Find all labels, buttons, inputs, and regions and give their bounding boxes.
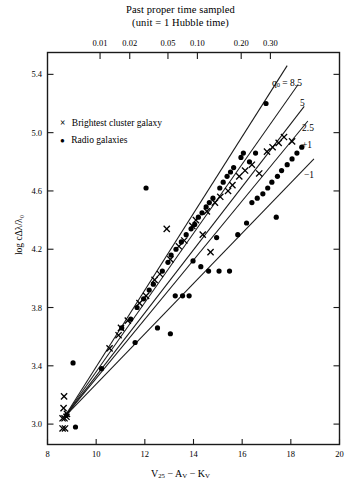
marker-dot xyxy=(160,268,165,273)
legend-marker-cross: × xyxy=(60,118,65,128)
y-tick-label-3.0: 3.0 xyxy=(16,419,42,429)
plot-canvas xyxy=(0,0,361,489)
x-tick-label-10: 10 xyxy=(92,449,101,459)
marker-dot xyxy=(231,165,236,170)
marker-dot xyxy=(224,174,229,179)
marker-dot xyxy=(187,293,192,298)
marker-dot xyxy=(285,162,290,167)
model-line-4 xyxy=(65,159,314,417)
marker-dot xyxy=(235,232,240,237)
model-line-label-4: −1 xyxy=(304,170,314,180)
series-brightest-cluster-galaxy-points xyxy=(59,134,295,432)
marker-cross xyxy=(281,134,287,140)
marker-cross xyxy=(242,167,248,173)
marker-dot xyxy=(188,226,193,231)
legend-item-brightest-cluster-galaxy: × Brightest cluster galaxy xyxy=(60,118,162,128)
y-tick-label-3.4: 3.4 xyxy=(16,361,42,371)
marker-dot xyxy=(249,200,254,205)
marker-dot xyxy=(73,424,78,429)
y-tick-label-3.8: 3.8 xyxy=(16,303,42,313)
top-tick-label-0.05: 0.05 xyxy=(161,38,176,48)
marker-dot xyxy=(151,282,156,287)
marker-dot xyxy=(99,366,104,371)
top-tick-label-0.10: 0.10 xyxy=(190,38,205,48)
model-line-label-2: 2.5 xyxy=(302,123,314,133)
x-tick-label-20: 20 xyxy=(335,449,344,459)
marker-dot xyxy=(165,260,170,265)
marker-dot xyxy=(265,185,270,190)
legend-marker-dot: ● xyxy=(60,136,65,145)
marker-dot xyxy=(274,215,279,220)
marker-dot xyxy=(255,196,260,201)
marker-dot xyxy=(70,360,75,365)
marker-dot xyxy=(275,174,280,179)
marker-cross xyxy=(256,170,262,176)
legend-label-radio-galaxies: Radio galaxies xyxy=(71,135,127,145)
marker-dot xyxy=(217,185,222,190)
legend-item-radio-galaxies: ● Radio galaxies xyxy=(60,135,127,145)
marker-cross xyxy=(164,226,170,232)
x-axis-label-sub25: 25 xyxy=(158,472,165,479)
axis-ticks xyxy=(48,53,340,445)
marker-cross xyxy=(236,173,242,179)
marker-dot xyxy=(206,268,211,273)
marker-dot xyxy=(227,268,232,273)
marker-dot xyxy=(196,215,201,220)
marker-dot xyxy=(128,317,133,322)
model-line-label-1: 5 xyxy=(300,98,305,108)
marker-dot xyxy=(216,268,221,273)
marker-dot xyxy=(294,150,299,155)
marker-dot xyxy=(119,325,124,330)
marker-dot xyxy=(190,258,195,263)
marker-dot xyxy=(247,159,252,164)
marker-dot xyxy=(64,413,69,418)
marker-dot xyxy=(221,180,226,185)
marker-dot xyxy=(214,235,219,240)
marker-dot xyxy=(279,168,284,173)
hubble-diagram-figure: Past proper time sampled (unit = 1 Hubbl… xyxy=(0,0,361,489)
marker-dot xyxy=(241,150,246,155)
marker-cross xyxy=(225,188,231,194)
y-axis-label: log cΔλ/λ₀ xyxy=(14,180,24,290)
marker-dot xyxy=(169,252,174,257)
marker-dot xyxy=(238,155,243,160)
marker-dot xyxy=(173,247,178,252)
model-line-3 xyxy=(65,121,308,417)
marker-dot xyxy=(133,340,138,345)
marker-cross xyxy=(289,138,295,144)
marker-dot xyxy=(141,296,146,301)
marker-dot xyxy=(260,191,265,196)
marker-dot xyxy=(155,325,160,330)
marker-dot xyxy=(198,264,203,269)
marker-dot xyxy=(244,220,249,225)
plot-frame xyxy=(48,53,340,445)
y-tick-label-5.4: 5.4 xyxy=(16,69,42,79)
x-axis-label-minus-k: − K xyxy=(187,468,205,479)
top-tick-label-0.02: 0.02 xyxy=(122,38,137,48)
marker-dot xyxy=(184,232,189,237)
model-line-label-0: q0 = 8.5 xyxy=(272,78,302,88)
model-line-label-3: +1 xyxy=(302,140,312,150)
marker-dot xyxy=(210,196,215,201)
marker-dot xyxy=(173,293,178,298)
marker-dot xyxy=(228,169,233,174)
x-tick-label-8: 8 xyxy=(45,449,49,459)
top-tick-label-0.20: 0.20 xyxy=(234,38,249,48)
marker-dot xyxy=(180,293,185,298)
marker-cross xyxy=(61,393,67,399)
marker-dot xyxy=(134,305,139,310)
marker-cross xyxy=(269,144,275,150)
marker-dot xyxy=(199,210,204,215)
x-tick-label-16: 16 xyxy=(238,449,247,459)
marker-dot xyxy=(147,287,152,292)
marker-dot xyxy=(168,331,173,336)
legend-label-brightest-cluster-galaxy: Brightest cluster galaxy xyxy=(72,118,162,128)
marker-dot xyxy=(192,222,197,227)
marker-dot xyxy=(263,101,268,106)
marker-cross xyxy=(207,249,213,255)
x-tick-label-18: 18 xyxy=(287,449,296,459)
top-tick-label-0.30: 0.30 xyxy=(263,38,278,48)
x-tick-label-12: 12 xyxy=(141,449,150,459)
top-tick-label-0.01: 0.01 xyxy=(93,38,108,48)
marker-dot xyxy=(269,180,274,185)
